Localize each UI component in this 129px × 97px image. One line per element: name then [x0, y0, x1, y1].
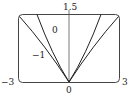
y-tick-top: 1.5 — [63, 3, 77, 12]
x-tick-right: 3 — [122, 78, 128, 87]
curve-label-inner: 0 — [52, 26, 58, 35]
x-tick-left: −3 — [1, 78, 14, 87]
curve-inner-right — [69, 15, 101, 83]
curve-label-outer: −1 — [32, 51, 45, 60]
curve-outer-right — [69, 17, 119, 83]
phase-plot — [0, 0, 129, 97]
x-tick-center: 0 — [66, 86, 72, 95]
